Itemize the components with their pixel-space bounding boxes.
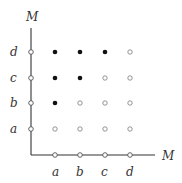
y-tick-label-c: c	[10, 71, 17, 85]
x-tick-label-d: d	[126, 165, 134, 179]
y-axis-marker-d	[29, 50, 34, 55]
x-axis-marker-a	[53, 153, 58, 158]
y-axis-marker-c	[29, 76, 34, 81]
grid-point-ab-filled	[53, 101, 58, 106]
grid-point-aa-open	[53, 127, 57, 131]
x-axis-marker-b	[78, 153, 83, 158]
x-tick-label-b: b	[76, 165, 84, 179]
y-tick-label-b: b	[10, 96, 18, 110]
y-axis-marker-a	[29, 127, 34, 132]
grid-point-cd-filled	[103, 50, 108, 55]
grid-point-cc-open	[103, 76, 107, 80]
grid-point-dc-open	[128, 76, 132, 80]
grid-point-bb-open	[78, 101, 82, 105]
grid-points	[53, 50, 133, 132]
x-axis-marker-c	[103, 153, 108, 158]
grid-point-dd-open	[128, 50, 132, 54]
grid-point-ca-open	[103, 127, 107, 131]
grid-point-ac-filled	[53, 76, 58, 81]
poset-diagram: M M d c b a a b c d	[0, 0, 182, 183]
grid-point-db-open	[128, 101, 132, 105]
x-tick-label-c: c	[101, 165, 108, 179]
grid-point-bc-filled	[78, 76, 83, 81]
y-axis-marker-b	[29, 101, 34, 106]
x-tick-label-a: a	[52, 165, 59, 179]
y-tick-label-a: a	[10, 122, 17, 136]
y-tick-label-d: d	[10, 45, 18, 59]
y-axis-label: M	[25, 10, 39, 24]
grid-point-ad-filled	[53, 50, 58, 55]
x-axis-marker-d	[128, 153, 133, 158]
grid-point-bd-filled	[78, 50, 83, 55]
grid-point-da-open	[128, 127, 132, 131]
grid-point-ba-open	[78, 127, 82, 131]
grid-point-cb-open	[103, 101, 107, 105]
x-axis-label: M	[161, 149, 175, 163]
